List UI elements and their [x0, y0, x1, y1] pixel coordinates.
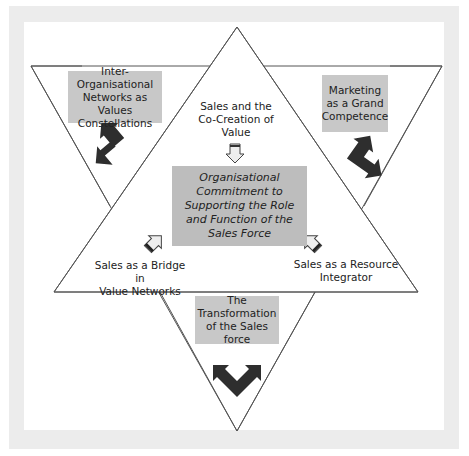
- box-inter-organisational-networks: Inter- Organisational Networks as Values…: [68, 71, 162, 123]
- box-line: of the Sales force: [198, 320, 277, 346]
- label-line: Sales as a Resource: [293, 258, 399, 271]
- box-line: Competence: [322, 110, 389, 123]
- box-line: Organisational: [71, 78, 159, 91]
- box-line: Transformation: [198, 307, 277, 320]
- label-line: Value: [186, 126, 286, 139]
- label-sales-bridge-value-networks: Sales as a Bridge in Value Networks: [90, 259, 190, 298]
- center-line: Organisational: [185, 171, 295, 185]
- label-line: Integrator: [293, 271, 399, 284]
- box-line: as a Grand: [322, 97, 389, 110]
- double-headed-arrow-icon: [213, 365, 261, 397]
- label-sales-co-creation-of-value: Sales and the Co-Creation of Value: [186, 100, 286, 139]
- center-line: Supporting the Role: [185, 199, 295, 213]
- center-line: and Function of the: [185, 213, 295, 227]
- box-line: Inter-: [71, 65, 159, 78]
- center-line: Sales Force: [185, 227, 295, 241]
- label-line: Sales as a Bridge in: [90, 259, 190, 285]
- center-line: Commitment to: [185, 185, 295, 199]
- label-sales-resource-integrator: Sales as a Resource Integrator: [293, 258, 399, 284]
- box-line: The: [198, 294, 277, 307]
- box-transformation-of-sales-force: The Transformation of the Sales force: [195, 296, 279, 344]
- center-box-organisational-commitment: Organisational Commitment to Supporting …: [172, 166, 307, 246]
- double-headed-arrow-icon: [339, 129, 397, 185]
- box-line: Constellations: [71, 117, 159, 130]
- label-line: Sales and the: [186, 100, 286, 113]
- label-line: Value Networks: [90, 285, 190, 298]
- label-line: Co-Creation of: [186, 113, 286, 126]
- box-line: Networks as Values: [71, 91, 159, 117]
- box-marketing-grand-competence: Marketing as a Grand Competence: [322, 75, 388, 132]
- box-line: Marketing: [322, 84, 389, 97]
